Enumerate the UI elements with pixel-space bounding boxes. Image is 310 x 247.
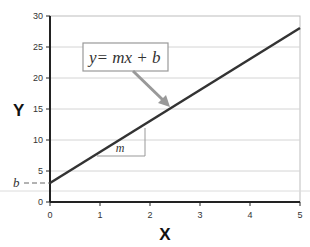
x-tick-label: 2 (147, 210, 152, 220)
y-tick-label: 5 (38, 166, 43, 176)
y-tick-label: 20 (33, 73, 43, 83)
y-tick-label: 0 (38, 197, 43, 207)
y-axis-title: Y (13, 101, 25, 120)
y-tick-label: 15 (33, 104, 43, 114)
x-tick-label: 0 (47, 210, 52, 220)
equation-label: y= mx + b (87, 48, 161, 67)
x-tick-label: 4 (247, 210, 252, 220)
y-tick-label: 30 (33, 11, 43, 21)
y-tick-label: 25 (33, 42, 43, 52)
intercept-label: b (13, 175, 20, 190)
x-tick-label: 5 (297, 210, 302, 220)
y-tick-label: 10 (33, 135, 43, 145)
x-tick-label: 3 (197, 210, 202, 220)
x-tick-label: 1 (97, 210, 102, 220)
slope-label: m (116, 141, 125, 155)
line-chart: 30 25 20 15 10 5 0 0 1 2 3 4 5 Y X m b y… (0, 0, 310, 247)
x-axis-title: X (159, 225, 171, 244)
